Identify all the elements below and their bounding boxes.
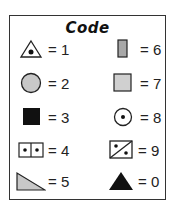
gray-rectangle-icon: [110, 38, 136, 60]
legend-item-3: = 3: [18, 106, 69, 128]
legend-label-6: = 6: [140, 41, 161, 58]
legend-label-7: = 7: [140, 75, 161, 92]
legend-title: Code: [0, 19, 175, 37]
legend-label-4: = 4: [48, 142, 69, 159]
legend-item-7: = 7: [110, 72, 161, 94]
legend-label-3: = 3: [48, 109, 69, 126]
legend-item-4: = 4: [18, 139, 69, 161]
black-square-icon: [18, 106, 44, 128]
legend-label-0: = 0: [138, 173, 159, 190]
gray-square-icon: [110, 72, 136, 94]
legend-label-2: = 2: [48, 75, 69, 92]
legend-item-2: = 2: [18, 72, 69, 94]
legend-item-9: = 9: [108, 139, 159, 161]
legend-item-1: = 1: [18, 38, 69, 60]
triangle-with-dot-icon: [18, 38, 44, 60]
legend-label-8: = 8: [140, 109, 161, 126]
legend-item-5: = 5: [16, 170, 69, 192]
legend-label-9: = 9: [138, 142, 159, 159]
legend-item-8: = 8: [110, 106, 161, 128]
legend-item-0: = 0: [108, 170, 159, 192]
diagonal-box-icon: [108, 139, 134, 161]
gray-right-triangle-icon: [16, 170, 46, 192]
legend-item-6: = 6: [110, 38, 161, 60]
legend-label-5: = 5: [48, 173, 69, 190]
legend-label-1: = 1: [48, 41, 69, 58]
gray-circle-icon: [18, 72, 44, 94]
circle-with-dot-icon: [110, 106, 136, 128]
black-triangle-icon: [108, 170, 134, 192]
two-dot-box-icon: [18, 139, 44, 161]
